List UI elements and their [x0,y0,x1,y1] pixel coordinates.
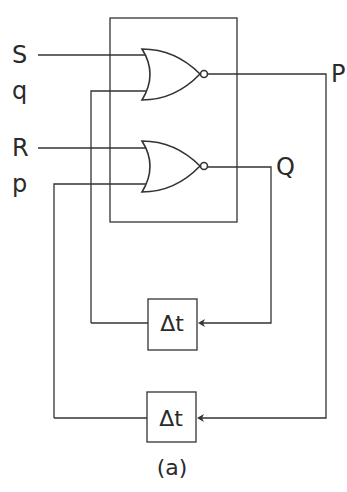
label-Q: Q [276,153,295,181]
label-P: P [331,60,345,88]
wire-P [201,74,326,418]
label-R: R [12,134,29,162]
wire-q [91,91,148,323]
latch-enclosure [110,18,237,222]
wire-p [54,184,148,418]
nor-gate-bottom [142,141,208,192]
label-S: S [12,41,27,69]
wire-Q [201,167,271,323]
label-p: p [12,170,27,198]
nor-gate-top [142,49,208,100]
delay-label-top: Δt [160,311,184,336]
delay-label-bottom: Δt [159,406,183,431]
figure-caption: (a) [157,455,188,480]
inversion-bubble [201,71,208,78]
circuit-diagram: S q R p P Q Δt Δt (a) [0,0,347,492]
label-q: q [12,77,27,105]
inversion-bubble [201,163,208,170]
